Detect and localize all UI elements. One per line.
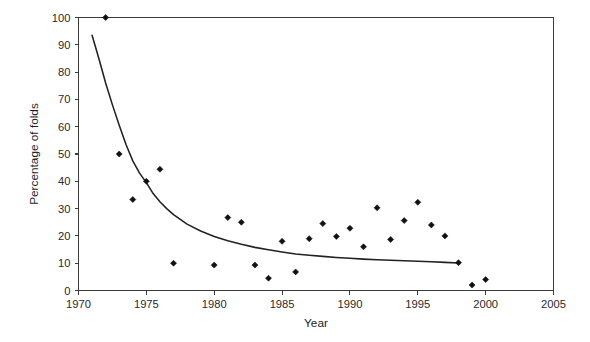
x-tick-label: 1990: [337, 298, 362, 310]
chart-container: 0102030405060708090100 19701975198019851…: [0, 0, 590, 342]
percentage-of-folds-scatter-chart: 0102030405060708090100 19701975198019851…: [0, 0, 590, 342]
data-point-marker: [442, 233, 448, 239]
x-axis-title: Year: [304, 316, 328, 330]
data-point-marker: [279, 238, 285, 244]
y-axis-title: Percentage of folds: [27, 103, 41, 205]
y-tick-label: 10: [58, 257, 70, 269]
data-point-marker: [157, 166, 163, 172]
data-point-marker: [374, 205, 380, 211]
data-point-marker: [401, 218, 407, 224]
y-tick-label: 80: [58, 66, 70, 78]
data-point-marker: [130, 197, 136, 203]
x-tick-label: 1970: [66, 298, 91, 310]
x-tick-label: 1995: [405, 298, 430, 310]
data-point-marker: [388, 236, 394, 242]
data-point-marker: [333, 233, 339, 239]
y-tick-label: 60: [58, 121, 70, 133]
data-point-marker: [103, 15, 109, 21]
y-axis: 0102030405060708090100: [52, 12, 79, 297]
data-point-marker: [483, 277, 489, 283]
y-tick-label: 70: [58, 93, 70, 105]
data-point-marker: [171, 260, 177, 266]
data-point-marker: [320, 221, 326, 227]
x-tick-label: 1980: [202, 298, 227, 310]
data-point-marker: [293, 269, 299, 275]
data-point-marker: [456, 260, 462, 266]
fitted-curve-group: [92, 35, 458, 263]
x-tick-label: 2000: [473, 298, 498, 310]
data-point-marker: [469, 282, 475, 288]
y-tick-label: 90: [58, 39, 70, 51]
y-tick-label: 50: [58, 148, 70, 160]
data-point-marker: [266, 275, 272, 281]
data-point-marker: [428, 222, 434, 228]
data-point-marker: [238, 219, 244, 225]
data-point-marker: [306, 236, 312, 242]
x-tick-label: 2005: [541, 298, 566, 310]
y-tick-label: 30: [58, 203, 70, 215]
x-tick-label: 1985: [270, 298, 295, 310]
y-tick-label: 100: [52, 12, 71, 24]
plot-frame: [79, 18, 554, 291]
data-point-marker: [211, 262, 217, 268]
y-tick-label: 40: [58, 175, 70, 187]
y-tick-label: 20: [58, 230, 70, 242]
data-point-marker: [347, 225, 353, 231]
y-tick-label: 0: [64, 285, 70, 297]
data-point-marker: [415, 199, 421, 205]
x-axis: 19701975198019851990199520002005: [66, 291, 566, 310]
data-point-marker: [252, 262, 258, 268]
data-point-marker: [225, 215, 231, 221]
data-point-marker: [116, 151, 122, 157]
x-tick-label: 1975: [134, 298, 159, 310]
scatter-points: [103, 15, 489, 289]
data-point-marker: [361, 244, 367, 250]
